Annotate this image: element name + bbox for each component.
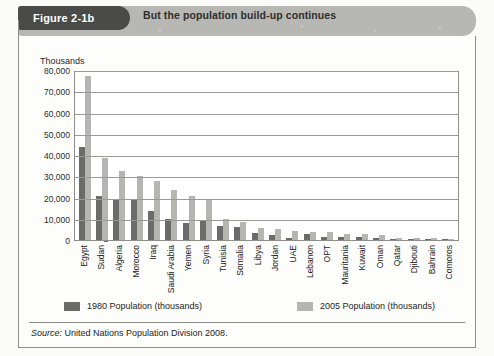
x-axis-tick-label: Libya — [253, 245, 263, 265]
y-axis-units-label: Thousands — [40, 56, 85, 66]
y-axis-tick-label: 60,000 — [44, 109, 70, 119]
y-axis-tick-label: 30,000 — [44, 172, 70, 182]
x-axis-tick-label: Comoros — [444, 245, 454, 279]
x-axis-label-cell: Mauritania — [336, 243, 353, 295]
x-axis-label-cell: Libya — [249, 243, 266, 295]
x-axis-label-cell: Qatar — [388, 243, 405, 295]
bar-2005 — [258, 228, 264, 240]
x-axis-tick-label: Algeria — [114, 245, 124, 271]
x-axis-tick-label: Mauritania — [340, 245, 350, 285]
legend-item-1980: 1980 Population (thousands) — [64, 301, 202, 311]
x-axis-label-cell: Syria — [197, 243, 214, 295]
x-axis-label-cell: Somalia — [232, 243, 249, 295]
figure-number-tab: Figure 2-1b — [18, 6, 130, 30]
card-left-edge — [18, 20, 19, 37]
x-axis-tick-label: OPT — [322, 245, 332, 262]
bar-2005 — [344, 234, 350, 240]
legend-item-2005: 2005 Population (thousands) — [297, 301, 435, 311]
legend-swatch-1980 — [64, 302, 80, 311]
x-axis-tick-label: UAE — [288, 245, 298, 262]
x-axis-tick-label: Yemen — [183, 245, 193, 271]
x-axis-tick-label: Egypt — [79, 245, 89, 267]
y-axis: 010,00020,00030,00040,00050,00060,00070,… — [34, 71, 70, 241]
gridline — [75, 92, 458, 93]
x-axis-label-cell: Tunisia — [214, 243, 231, 295]
bar-2005 — [171, 190, 177, 240]
x-axis-label-cell: Kuwait — [354, 243, 371, 295]
x-axis-label-cell: Saudi Arabia — [162, 243, 179, 295]
x-axis-label-cell: OPT — [319, 243, 336, 295]
gridline — [75, 71, 458, 72]
x-axis-labels: EgyptSudanAlgeriaMoroccoIraqSaudi Arabia… — [74, 243, 459, 295]
x-axis-label-cell: Djibouti — [406, 243, 423, 295]
x-axis-label-cell: Algeria — [110, 243, 127, 295]
bar-2005 — [327, 232, 333, 240]
x-axis-label-cell: Lebanon — [301, 243, 318, 295]
source-text: United Nations Population Division 2008. — [62, 328, 228, 338]
figure-number-label: Figure 2-1b — [18, 12, 95, 24]
bar-2005 — [292, 231, 298, 240]
x-axis-label-cell: Comoros — [441, 243, 458, 295]
x-axis-tick-label: Lebanon — [305, 245, 315, 278]
bar-2005 — [362, 234, 368, 240]
x-axis-tick-label: Bahrain — [427, 245, 437, 274]
x-axis-tick-label: Somalia — [235, 245, 245, 276]
bar-2005 — [189, 196, 195, 240]
bar-2005 — [275, 229, 281, 240]
gridline — [75, 135, 458, 136]
bar-2005 — [137, 176, 143, 240]
gridline — [75, 199, 458, 200]
x-axis-tick-label: Saudi Arabia — [166, 245, 176, 293]
gridline — [75, 177, 458, 178]
source-prefix: Source: — [31, 328, 62, 338]
bar-2005 — [223, 219, 229, 240]
x-axis-tick-label: Qatar — [392, 245, 402, 266]
legend-label-2005: 2005 Population (thousands) — [320, 301, 435, 311]
chart-legend: 1980 Population (thousands) 2005 Populat… — [18, 299, 476, 321]
bar-2005 — [240, 222, 246, 240]
legend-swatch-2005 — [297, 302, 313, 311]
y-axis-tick-label: 40,000 — [44, 151, 70, 161]
y-axis-tick-label: 50,000 — [44, 130, 70, 140]
x-axis-tick-label: Syria — [201, 245, 211, 264]
bar-2005 — [396, 238, 402, 240]
x-axis-tick-label: Sudan — [96, 245, 106, 270]
source-divider — [29, 322, 465, 323]
figure-page: Figure 2-1b But the population build-up … — [0, 0, 494, 356]
x-axis-label-cell: Oman — [371, 243, 388, 295]
x-axis-label-cell: Egypt — [75, 243, 92, 295]
x-axis-tick-label: Oman — [375, 245, 385, 268]
y-axis-tick-label: 0 — [65, 236, 70, 246]
bar-2005 — [431, 238, 437, 240]
plot-area — [74, 71, 459, 241]
gridline — [75, 220, 458, 221]
bar-2005 — [310, 232, 316, 241]
gridline — [75, 156, 458, 157]
bar-2005 — [414, 238, 420, 240]
x-axis-label-cell: Jordan — [266, 243, 283, 295]
bar-2005 — [154, 181, 160, 240]
bar-2005 — [85, 76, 91, 240]
x-axis-tick-label: Jordan — [270, 245, 280, 271]
source-note: Source: United Nations Population Divisi… — [31, 328, 228, 338]
x-axis-label-cell: Yemen — [179, 243, 196, 295]
x-axis-tick-label: Morocco — [131, 245, 141, 278]
y-axis-tick-label: 10,000 — [44, 215, 70, 225]
y-axis-tick-label: 20,000 — [44, 194, 70, 204]
x-axis-tick-label: Iraq — [148, 245, 158, 260]
y-axis-tick-label: 70,000 — [44, 87, 70, 97]
x-axis-label-cell: Morocco — [127, 243, 144, 295]
figure-title: But the population build-up continues — [143, 9, 336, 21]
y-axis-tick-label: 80,000 — [44, 66, 70, 76]
x-axis-label-cell: Sudan — [92, 243, 109, 295]
x-axis-tick-label: Djibouti — [409, 245, 419, 273]
y-axis-tick-mark — [104, 241, 108, 242]
x-axis-label-cell: Bahrain — [423, 243, 440, 295]
bar-2005 — [379, 235, 385, 240]
x-axis-tick-label: Kuwait — [357, 245, 367, 271]
x-axis-label-cell: Iraq — [145, 243, 162, 295]
bar-2005 — [448, 239, 454, 240]
x-axis-label-cell: UAE — [284, 243, 301, 295]
x-axis-tick-label: Tunisia — [218, 245, 228, 272]
legend-label-1980: 1980 Population (thousands) — [87, 301, 202, 311]
